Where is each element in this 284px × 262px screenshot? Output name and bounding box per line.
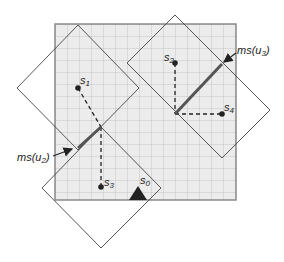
grid-map [55, 24, 236, 200]
label-ms-u2: ms(u2) [17, 151, 50, 165]
point-s3 [98, 184, 104, 190]
diagram-canvas: s1 s2 s3 s4 s0 ms(u3) ms(u2) [0, 0, 284, 262]
label-ms-u3: ms(u3) [237, 44, 270, 58]
point-s1 [75, 85, 81, 91]
